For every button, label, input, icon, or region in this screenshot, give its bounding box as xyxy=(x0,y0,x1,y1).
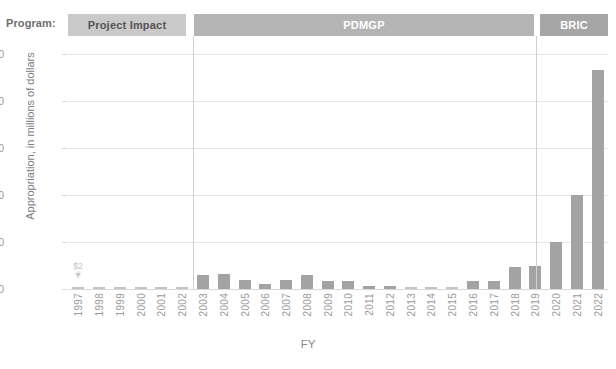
y-tick-mark-2000 xyxy=(62,101,67,102)
x-tick-label-2011: 2011 xyxy=(364,293,375,316)
program-legend-row: Program: Project Impact PDMGP BRIC xyxy=(0,14,616,36)
x-tick-label-2009: 2009 xyxy=(323,293,334,316)
x-axis-baseline xyxy=(68,289,608,290)
y-tick-label-0: 0 xyxy=(0,283,4,295)
x-tick-label-2005: 2005 xyxy=(240,293,251,316)
plot-area xyxy=(68,54,608,289)
bar-2004 xyxy=(218,274,230,289)
y-tick-mark-1000 xyxy=(62,195,67,196)
y-tick-label-2000: 2,000 xyxy=(0,95,4,107)
x-tick-label-2010: 2010 xyxy=(343,293,354,316)
x-tick-label-1998: 1998 xyxy=(94,293,105,316)
program-band-project-impact: Project Impact xyxy=(68,14,186,36)
x-tick-label-2020: 2020 xyxy=(551,293,562,316)
y-tick-label-2500: 2,500 xyxy=(0,48,4,60)
bar-2003 xyxy=(197,275,209,289)
program-band-bric: BRIC xyxy=(540,14,608,36)
bar-2021 xyxy=(571,195,583,289)
x-tick-label-2012: 2012 xyxy=(385,293,396,316)
bar-2020 xyxy=(550,242,562,289)
annotation-arrow-icon xyxy=(75,273,81,278)
bar-2010 xyxy=(342,281,354,289)
x-tick-label-2013: 2013 xyxy=(406,293,417,316)
bar-2016 xyxy=(467,281,479,289)
gridline-500 xyxy=(68,242,608,243)
bar-2022 xyxy=(592,70,604,289)
y-axis-label: Appropriation, in millions of dollars xyxy=(24,11,36,261)
program-separator-2019-2020 xyxy=(536,36,537,290)
y-tick-mark-1500 xyxy=(62,148,67,149)
x-tick-label-2002: 2002 xyxy=(177,293,188,316)
y-tick-label-1500: 1,500 xyxy=(0,142,4,154)
y-tick-mark-2500 xyxy=(62,54,67,55)
bar-2008 xyxy=(301,275,313,289)
y-tick-label-500: 500 xyxy=(0,236,4,248)
bar-2018 xyxy=(509,267,521,289)
bar-2005 xyxy=(239,280,251,289)
bar-2009 xyxy=(322,281,334,289)
bar-2007 xyxy=(280,280,292,289)
x-tick-label-2017: 2017 xyxy=(489,293,500,316)
x-tick-label-2008: 2008 xyxy=(302,293,313,316)
x-tick-label-2006: 2006 xyxy=(260,293,271,316)
bar-2017 xyxy=(488,281,500,289)
x-tick-label-1999: 1999 xyxy=(115,293,126,316)
x-tick-label-2004: 2004 xyxy=(219,293,230,316)
x-tick-label-2003: 2003 xyxy=(198,293,209,316)
program-separator-2002-2003 xyxy=(193,36,194,290)
x-tick-label-2019: 2019 xyxy=(530,293,541,316)
y-tick-mark-0 xyxy=(62,289,67,290)
x-tick-label-2016: 2016 xyxy=(468,293,479,316)
x-tick-label-2018: 2018 xyxy=(510,293,521,316)
x-tick-label-2007: 2007 xyxy=(281,293,292,316)
x-tick-label-1997: 1997 xyxy=(73,293,84,316)
gridline-2000 xyxy=(68,101,608,102)
gridline-1500 xyxy=(68,148,608,149)
gridline-1000 xyxy=(68,195,608,196)
x-tick-label-2015: 2015 xyxy=(447,293,458,316)
x-axis-label: FY xyxy=(0,338,616,350)
x-tick-label-2000: 2000 xyxy=(136,293,147,316)
gridline-2500 xyxy=(68,54,608,55)
annotation-fy1997-value: $2 xyxy=(66,262,90,271)
y-tick-mark-500 xyxy=(62,242,67,243)
program-band-pdmgp: PDMGP xyxy=(194,14,534,36)
y-tick-label-1000: 1,000 xyxy=(0,189,4,201)
x-tick-label-2021: 2021 xyxy=(572,293,583,316)
x-tick-label-2014: 2014 xyxy=(426,293,437,316)
x-tick-label-2001: 2001 xyxy=(156,293,167,316)
x-tick-label-2022: 2022 xyxy=(593,293,604,316)
